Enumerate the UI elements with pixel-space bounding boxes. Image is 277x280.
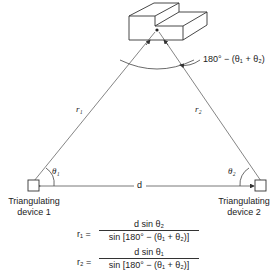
eq2-lhs: r₂ = <box>77 257 91 267</box>
theta1-label: θ₁ <box>52 167 60 176</box>
target-object <box>129 3 207 40</box>
apex-angle-label: 180° − (θ₁ + θ₂) <box>203 55 265 64</box>
device-1-label: Triangulating device 1 <box>4 196 64 218</box>
r2-label: r₂ <box>195 105 202 114</box>
apex-point <box>155 28 158 31</box>
eq2-fraction: d sin θ₁ sin [180° − (θ₁ + θ₂)] <box>99 247 199 270</box>
theta2-arc <box>240 168 249 186</box>
baseline-label: d <box>137 181 142 190</box>
device-2-box <box>255 180 266 191</box>
r1-label: r₁ <box>76 105 83 114</box>
device-1-box <box>28 180 39 191</box>
eq1-lhs: r₁ = <box>77 229 91 239</box>
side-r1 <box>34 32 155 181</box>
device-2-label: Triangulating device 2 <box>212 196 276 218</box>
theta2-label: θ₂ <box>228 167 236 176</box>
eq1-fraction: d sin θ₂ sin [180° − (θ₁ + θ₂)] <box>99 219 199 242</box>
